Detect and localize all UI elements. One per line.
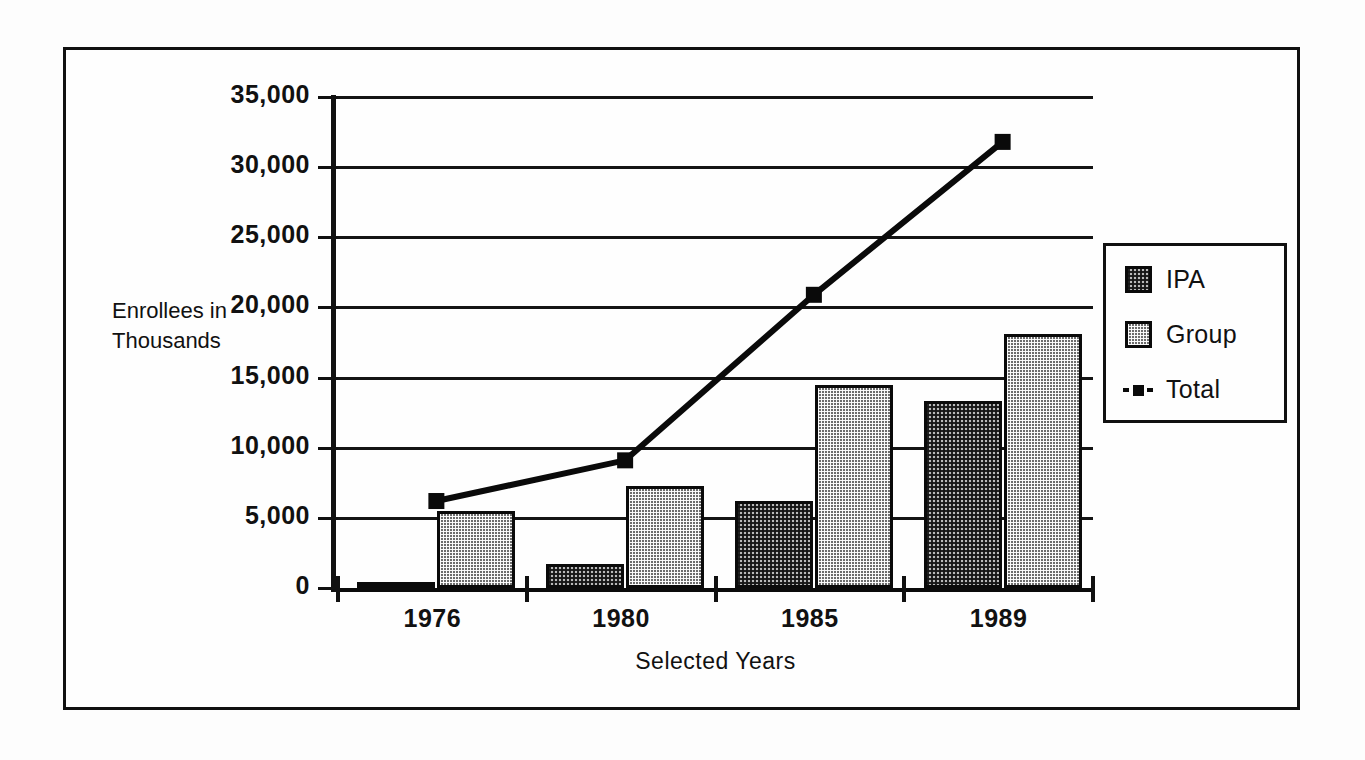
x-tick-label-1985: 1985: [730, 604, 890, 633]
y-tick-label-25000: 25,000: [180, 220, 310, 249]
y-tick-label-5000: 5,000: [180, 501, 310, 530]
y-tick-30000: [318, 166, 338, 169]
legend-swatch-group-icon: [1125, 321, 1152, 348]
legend-label-group: Group: [1166, 320, 1237, 349]
y-tick-label-15000: 15,000: [180, 361, 310, 390]
y-tick-label-10000: 10,000: [180, 431, 310, 460]
y-tick-25000: [318, 236, 338, 239]
gridline-35000: [338, 96, 1093, 99]
x-tick-1: [525, 576, 529, 602]
legend-label-total: Total: [1166, 375, 1220, 404]
total-marker-1976: [428, 493, 444, 509]
x-tick-3: [902, 576, 906, 602]
y-tick-0: [318, 587, 338, 590]
bar-ipa-1985: [735, 501, 813, 588]
x-axis-title: Selected Years: [338, 648, 1093, 675]
legend-label-ipa: IPA: [1166, 265, 1205, 294]
y-tick-10000: [318, 447, 338, 450]
bar-ipa-1989: [924, 401, 1002, 588]
gridline-30000: [338, 166, 1093, 169]
x-tick-0: [336, 576, 340, 602]
y-tick-15000: [318, 377, 338, 380]
bar-group-1985: [815, 385, 893, 588]
gridline-15000: [338, 377, 1093, 380]
legend-item-ipa[interactable]: IPA: [1125, 262, 1205, 296]
bar-group-1980: [626, 486, 704, 588]
x-tick-label-1976: 1976: [352, 604, 512, 633]
chart-page: Enrollees in Thousands 05,00010,00015,00…: [0, 0, 1365, 760]
total-marker-1985: [806, 287, 822, 303]
y-tick-label-30000: 30,000: [180, 150, 310, 179]
y-tick-label-20000: 20,000: [180, 290, 310, 319]
bar-group-1976: [437, 511, 515, 588]
legend-item-group[interactable]: Group: [1125, 317, 1237, 351]
x-tick-label-1980: 1980: [541, 604, 701, 633]
y-tick-20000: [318, 306, 338, 309]
total-marker-1989: [995, 134, 1011, 150]
bar-group-1989: [1004, 334, 1082, 588]
x-tick-label-1989: 1989: [919, 604, 1079, 633]
gridline-25000: [338, 236, 1093, 239]
legend-dashed-line-square-icon: [1125, 376, 1152, 403]
bar-ipa-1980: [546, 564, 624, 588]
x-tick-2: [714, 576, 718, 602]
y-axis-title-line-2: Thousands: [112, 326, 312, 356]
y-tick-label-0: 0: [180, 571, 310, 600]
legend-item-total[interactable]: Total: [1125, 372, 1220, 406]
gridline-20000: [338, 306, 1093, 309]
legend-swatch-ipa-icon: [1125, 266, 1152, 293]
chart-legend: IPA Group Total: [1103, 243, 1287, 423]
y-tick-5000: [318, 517, 338, 520]
bar-ipa-1976: [357, 582, 435, 588]
total-marker-1980: [617, 452, 633, 468]
y-tick-label-35000: 35,000: [180, 80, 310, 109]
x-tick-4: [1091, 576, 1095, 602]
y-tick-35000: [318, 96, 338, 99]
plot-area: [338, 97, 1093, 588]
